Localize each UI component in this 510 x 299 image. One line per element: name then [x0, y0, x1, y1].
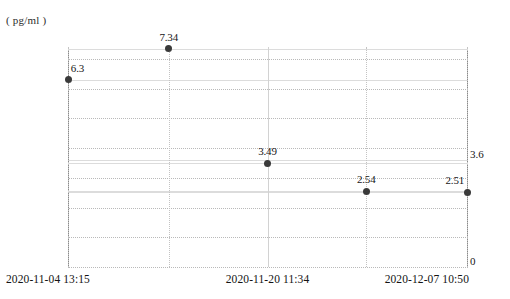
right-axis-zero-label: 0: [470, 255, 476, 267]
right-axis-annotation: 3.6: [470, 148, 484, 160]
plot-area: 6.37.343.492.542.51: [68, 47, 468, 267]
data-point[interactable]: [464, 189, 471, 196]
data-point-label: 7.34: [160, 31, 178, 43]
gridline-vertical: [169, 47, 170, 267]
data-point[interactable]: [165, 45, 172, 52]
data-point-label: 6.3: [71, 62, 84, 74]
data-point-label: 3.49: [258, 145, 276, 157]
data-point[interactable]: [65, 76, 72, 83]
scatter-chart: ( pg/ml ) 6.37.343.492.542.51 01234567 3…: [0, 0, 510, 299]
gridline-vertical: [366, 47, 367, 267]
x-axis-tick-label: 2020-12-07 10:50: [385, 273, 469, 285]
data-point[interactable]: [363, 188, 370, 195]
gridline-vertical: [467, 47, 468, 267]
gridline-horizontal: [68, 267, 468, 268]
data-point[interactable]: [264, 160, 271, 167]
data-point-label: 2.51: [446, 174, 464, 186]
y-axis-unit-label: ( pg/ml ): [6, 14, 46, 26]
data-point-label: 2.54: [357, 173, 375, 185]
x-axis-tick-label: 2020-11-20 11:34: [226, 273, 309, 285]
x-axis-tick-label: 2020-11-04 13:15: [6, 273, 90, 285]
